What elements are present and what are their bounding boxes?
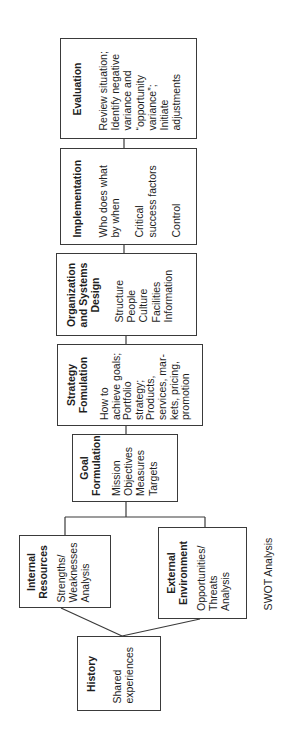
implementation-box: Implementation Who does what by when Cri… [60, 148, 197, 245]
internal-resources-box: Internal Resources Strengths/ Weaknesses… [19, 535, 111, 608]
external-environment-box: External Environment Opportunities/ Thre… [158, 527, 247, 619]
organization-body: Structure People Culture Facilities Info… [112, 253, 173, 328]
goal-title: Goal Formulation [78, 434, 102, 496]
swot-analysis-caption: SWOT Analysis [262, 538, 274, 611]
evaluation-title: Evaluation [70, 38, 82, 130]
strategy-body: How to achieve goals; Portfolio strategy… [99, 344, 192, 420]
history-body: Shared experiences [111, 636, 135, 703]
implementation-title: Implementation [70, 148, 82, 237]
organization-title: Organization and Systems Design [64, 253, 100, 328]
connector-external-history [122, 619, 200, 636]
connector-internal-history [61, 608, 122, 636]
internal-resources-title: Internal Resources [25, 535, 49, 602]
evaluation-box: Evaluation Review situation; Identify ne… [60, 38, 197, 139]
evaluation-body: Review situation; Identify negative vari… [96, 38, 181, 130]
external-environment-body: Opportunities/ Threats Analysis [194, 527, 231, 611]
organization-box: Organization and Systems Design Structur… [56, 253, 197, 336]
history-box: History Shared experiences [77, 636, 161, 711]
external-environment-title: External Environment [164, 527, 188, 611]
strategy-box: Strategy Fomulation How to achieve goals… [57, 344, 203, 426]
goal-body: Mission Objectives Measures Targets [110, 434, 159, 496]
history-title: History [85, 636, 97, 703]
implementation-body: Who does what by when Critical success f… [96, 148, 181, 237]
goal-box: Goal Formulation Mission Objectives Meas… [72, 434, 178, 502]
strategy-title: Strategy Fomulation [65, 344, 89, 420]
internal-resources-body: Strengths/ Weaknesses Analysis [55, 535, 92, 602]
